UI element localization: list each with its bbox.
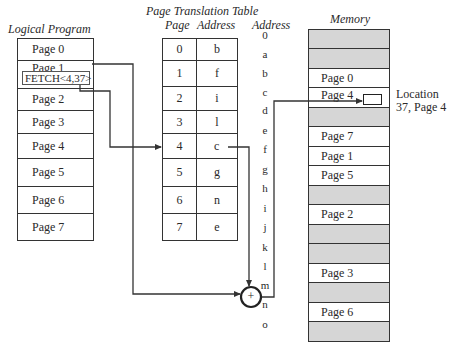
- page-label: Page 7: [32, 220, 64, 235]
- address-label: m: [258, 279, 272, 291]
- fetch-instruction: FETCH<4,37>: [22, 71, 90, 85]
- logical-page-5: Page 5: [17, 158, 94, 187]
- table-address-cell: g: [196, 158, 238, 187]
- memory-slot-i: Page 2: [308, 204, 390, 225]
- location-label: Location 37, Page 4: [396, 88, 446, 114]
- adder-symbol: +: [245, 289, 257, 304]
- address-label: a: [258, 48, 272, 60]
- table-address-cell: c: [196, 133, 238, 159]
- address-label: g: [258, 163, 272, 175]
- page-label: Page 4: [32, 139, 64, 154]
- address-label: h: [258, 182, 272, 194]
- address-label: d: [258, 104, 272, 116]
- location-label-line2: 37, Page 4: [396, 101, 446, 114]
- address-label: i: [258, 202, 272, 214]
- table-page-cell: 1: [162, 60, 197, 87]
- table-address-cell: i: [196, 86, 238, 111]
- table-page-cell: 6: [162, 186, 197, 214]
- address-label: b: [258, 67, 272, 79]
- table-address-cell: n: [196, 186, 238, 214]
- memory-slot-l: Page 3: [308, 263, 390, 284]
- logical-page-4: Page 4: [17, 133, 94, 159]
- address-label: l: [258, 260, 272, 272]
- logical-page-0: Page 0: [17, 38, 94, 61]
- logical-page-2: Page 2: [17, 88, 94, 111]
- location-box: [363, 94, 382, 105]
- table-page-cell: 4: [162, 133, 197, 159]
- memory-slot-0: [308, 29, 390, 50]
- page-table-col-address: Address: [197, 18, 235, 33]
- memory-slot-a: [308, 48, 390, 69]
- memory-slot-f: Page 1: [308, 146, 390, 167]
- logical-page-6: Page 6: [17, 186, 94, 214]
- table-address-cell: f: [196, 60, 238, 87]
- logical-page-7: Page 7: [17, 213, 94, 241]
- memory-slot-m: [308, 282, 390, 303]
- table-address-cell: e: [196, 213, 238, 241]
- address-label: 0: [258, 29, 272, 41]
- logical-program-title: Logical Program: [8, 22, 91, 37]
- address-label: e: [258, 124, 272, 136]
- page-label: Page 3: [32, 115, 64, 130]
- memory-slot-b: Page 0: [308, 68, 390, 89]
- address-label: k: [258, 241, 272, 253]
- logical-page-3: Page 3: [17, 110, 94, 134]
- page-label: Page 5: [32, 165, 64, 180]
- memory-title: Memory: [330, 12, 370, 27]
- table-page-cell: 3: [162, 110, 197, 134]
- address-label: o: [258, 318, 272, 330]
- memory-slot-g: Page 5: [308, 165, 390, 186]
- page-label: Page 2: [32, 92, 64, 107]
- address-label: c: [258, 86, 272, 98]
- page-table-title: Page Translation Table: [146, 4, 258, 19]
- memory-slot-n: Page 6: [308, 302, 390, 323]
- table-address-cell: b: [196, 38, 238, 61]
- page-label: Page 6: [32, 193, 64, 208]
- address-label: n: [258, 298, 272, 310]
- memory-slot-o: [308, 321, 390, 342]
- memory-slot-k: [308, 243, 390, 264]
- table-page-cell: 5: [162, 158, 197, 187]
- page-table-col-page: Page: [165, 18, 190, 33]
- address-label: j: [258, 221, 272, 233]
- memory-slot-h: [308, 185, 390, 206]
- memory-slot-e: Page 7: [308, 126, 390, 147]
- memory-slot-d: [308, 107, 390, 128]
- table-page-cell: 7: [162, 213, 197, 241]
- table-page-cell: 0: [162, 38, 197, 61]
- table-page-cell: 2: [162, 86, 197, 111]
- page-label: Page 0: [32, 42, 64, 57]
- address-label: f: [258, 143, 272, 155]
- table-address-cell: l: [196, 110, 238, 134]
- memory-slot-j: [308, 224, 390, 245]
